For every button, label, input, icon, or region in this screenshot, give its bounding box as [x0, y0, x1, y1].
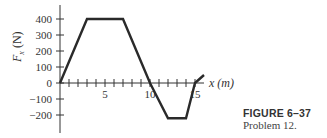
y-tick-label: 0: [47, 77, 53, 89]
problem-reference: Problem 12.: [243, 119, 311, 131]
y-tick-label: 200: [36, 45, 53, 57]
y-tick-label: 400: [36, 13, 53, 25]
y-tick-label: 300: [36, 29, 53, 41]
y-tick-label: −100: [29, 93, 52, 105]
y-tick-label: −200: [29, 109, 52, 121]
y-tick-label: 100: [36, 61, 53, 73]
x-axis-title: x (m): [208, 76, 234, 90]
x-tick-label: 5: [102, 88, 108, 100]
figure-number: FIGURE 6–37: [243, 107, 311, 119]
figure-caption: FIGURE 6–37 Problem 12.: [243, 107, 311, 131]
y-axis-title: Fx (N): [10, 31, 26, 63]
force-curve: [60, 19, 204, 118]
